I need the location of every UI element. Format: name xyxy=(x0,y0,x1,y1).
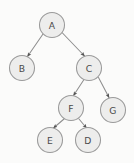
node-b-label: B xyxy=(19,63,26,74)
edge-c-to-g xyxy=(99,78,110,98)
node-e[interactable]: E xyxy=(38,128,63,153)
edge-a-to-c xyxy=(62,33,85,57)
edge-f-to-e xyxy=(54,119,65,128)
node-g[interactable]: G xyxy=(101,98,126,123)
tree-diagram: A B C F G E xyxy=(0,0,134,163)
node-f[interactable]: F xyxy=(59,96,84,121)
node-d[interactable]: D xyxy=(76,128,101,153)
node-b[interactable]: B xyxy=(10,56,35,81)
node-g-label: G xyxy=(109,105,116,116)
edge-c-to-f xyxy=(74,80,85,96)
node-c[interactable]: C xyxy=(77,56,102,81)
node-a[interactable]: A xyxy=(40,13,65,38)
tree-graph-canvas: A B C F G E xyxy=(0,0,134,163)
node-a-label: A xyxy=(49,20,56,31)
node-e-label: E xyxy=(47,135,53,146)
node-d-label: D xyxy=(84,135,91,146)
node-c-label: C xyxy=(86,63,93,74)
node-f-label: F xyxy=(68,103,74,114)
edge-a-to-b xyxy=(28,34,44,57)
node-group: A B C F G E xyxy=(10,13,126,153)
edge-f-to-d xyxy=(79,119,87,128)
